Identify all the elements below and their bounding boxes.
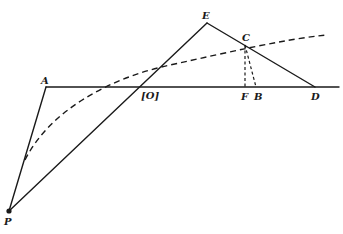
- label-a: A: [40, 75, 49, 86]
- line-pe: [9, 23, 207, 211]
- label-b: B: [253, 91, 262, 102]
- label-f: F: [240, 91, 249, 102]
- point-p-marker: [6, 208, 11, 213]
- label-c: C: [242, 32, 250, 43]
- geometry-diagram: A E C [O] F B D P: [0, 0, 343, 234]
- label-o: [O]: [141, 90, 159, 101]
- line-pa: [9, 87, 46, 211]
- label-d: D: [310, 91, 320, 102]
- label-p: P: [3, 216, 12, 227]
- label-e: E: [201, 10, 210, 21]
- line-ed: [207, 23, 315, 87]
